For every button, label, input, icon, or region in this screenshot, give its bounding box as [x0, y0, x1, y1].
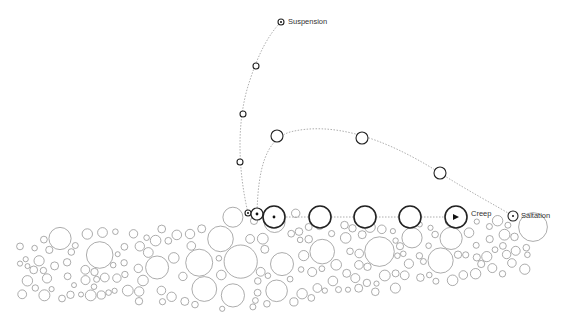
sediment-grain — [40, 267, 46, 273]
sediment-grain — [295, 228, 303, 236]
sediment-grain — [343, 269, 351, 277]
sediment-grain — [402, 228, 422, 248]
sediment-grain — [34, 256, 44, 266]
sediment-grain — [341, 221, 349, 229]
sediment-grain — [46, 246, 53, 253]
sediment-grain — [41, 236, 48, 243]
sediment-grain — [473, 242, 479, 248]
sediment-grain — [313, 284, 322, 293]
sediment-grain — [351, 274, 360, 283]
sediment-grain — [217, 270, 227, 280]
sediment-grain — [165, 237, 172, 244]
sediment-grain — [492, 216, 502, 226]
sediment-grain — [372, 288, 380, 296]
sediment-grain — [157, 286, 166, 295]
sediment-grain — [499, 271, 505, 277]
sediment-grain — [94, 276, 100, 282]
sediment-grain — [358, 231, 366, 239]
sediment-grain — [185, 229, 194, 238]
sediment-grain — [82, 229, 92, 239]
suspension-particle — [237, 159, 243, 165]
suspension-particle — [253, 63, 259, 69]
sediment-grain — [254, 278, 261, 285]
sediment-grain — [150, 235, 161, 246]
sediment-grain — [49, 227, 71, 249]
sediment-grain — [392, 270, 399, 277]
sediment-grain — [25, 264, 30, 269]
sediment-grain — [486, 224, 492, 230]
sediment-grain — [505, 222, 511, 228]
sediment-grain — [355, 261, 364, 270]
sediment-grain — [17, 243, 24, 250]
sediment-grain — [474, 219, 479, 224]
sediment-grain — [364, 263, 371, 270]
sediment-grain — [482, 252, 492, 262]
sediment-grain — [432, 231, 439, 238]
sediment-grain — [51, 262, 59, 270]
sediment-grain — [112, 288, 117, 293]
sediment-grain — [329, 231, 335, 237]
sediment-grain — [39, 290, 50, 301]
sediment-grain — [379, 270, 390, 281]
sediment-grain — [169, 253, 180, 264]
sediment-grain — [59, 295, 66, 302]
sediment-grain — [523, 244, 530, 251]
sediment-grain — [192, 301, 199, 308]
sediment-grain — [470, 269, 480, 279]
sediment-grain — [23, 257, 28, 262]
particle-center-dot — [280, 21, 282, 23]
sediment-grain — [427, 272, 433, 278]
sediment-grain — [106, 290, 112, 296]
sediment-grain — [374, 281, 379, 286]
sediment-grain — [492, 247, 498, 253]
sediment-grain — [181, 297, 189, 305]
sediment-grain — [100, 273, 109, 282]
suspension-path — [240, 22, 281, 213]
sediment-grain — [420, 259, 426, 265]
sediment-grain — [253, 298, 259, 304]
sediment-grain — [220, 306, 225, 311]
sediment-grain — [395, 253, 401, 259]
sediment-grain — [463, 252, 469, 258]
sediment-grain — [91, 268, 98, 275]
creep-particle — [309, 206, 331, 228]
sediment-grain — [433, 278, 439, 284]
sediment-grain — [297, 237, 303, 243]
sediment-grain — [328, 276, 338, 286]
sediment-grain — [478, 260, 485, 267]
sediment-grain — [250, 304, 256, 310]
sediment-grain — [261, 245, 269, 253]
sediment-grain — [310, 239, 335, 264]
sediment-grain — [355, 284, 363, 292]
sediment-grain — [134, 264, 142, 272]
sediment-grain — [121, 243, 128, 250]
sediment-grain — [81, 276, 90, 285]
sediment-grain — [520, 264, 530, 274]
sediment-grain — [32, 285, 38, 291]
sediment-grain — [72, 243, 78, 249]
sediment-grain — [428, 225, 433, 230]
sediment-grain — [363, 279, 370, 286]
sediment-grain — [18, 290, 27, 299]
sediment-grain — [288, 230, 295, 237]
sediment-grain — [355, 249, 364, 258]
sediment-grain — [511, 246, 520, 255]
sediment-grain — [265, 273, 271, 279]
sediment-grain — [390, 229, 395, 234]
sediment-grain — [216, 255, 222, 261]
sediment-grain — [198, 225, 206, 233]
sediment-grain — [365, 237, 395, 267]
particle-center-dot — [256, 213, 259, 216]
sediment-grain — [400, 271, 409, 280]
sediment-grain — [401, 251, 407, 257]
sediment-grain — [110, 262, 116, 268]
particles — [237, 19, 518, 228]
sediment-grain — [86, 242, 113, 269]
sediment-grain — [525, 252, 531, 258]
suspension-particle — [240, 111, 246, 117]
sediment-grain — [319, 266, 325, 272]
saltation-path — [257, 129, 513, 216]
sediment-grain — [404, 259, 413, 268]
suspension-label: Suspension — [288, 18, 327, 26]
sediment-grain — [159, 299, 165, 305]
